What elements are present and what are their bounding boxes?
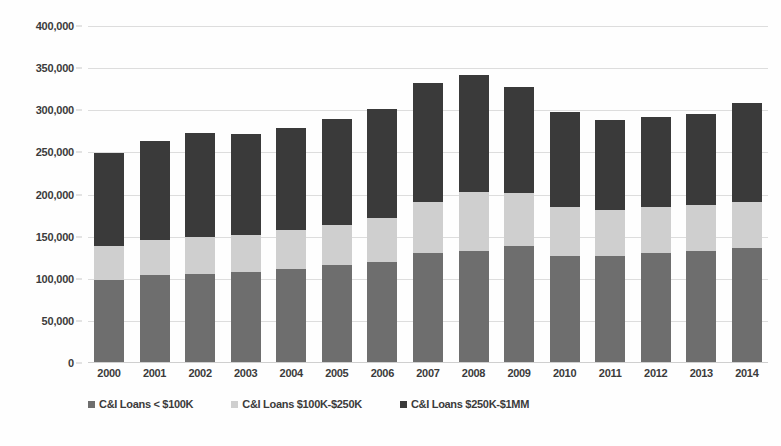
y-axis-tick-mark: [76, 26, 82, 27]
bar-column: [94, 26, 124, 363]
axis-baseline: [88, 362, 768, 363]
bar-segment: [231, 235, 261, 272]
bar-column: [686, 26, 716, 363]
bar-segment: [185, 133, 215, 237]
bar-segment: [686, 251, 716, 363]
bar-column: [322, 26, 352, 363]
y-axis-tick-label: 400,000: [36, 20, 74, 32]
bar-segment: [504, 193, 534, 246]
square-swatch-large-icon: [400, 401, 407, 408]
y-axis-tick-label: 50,000: [42, 315, 74, 327]
y-axis-tick-label: 300,000: [36, 104, 74, 116]
bar-segment: [185, 274, 215, 363]
chart-legend: C&I Loans < $100KC&I Loans $100K-$250KC&…: [88, 398, 688, 410]
bar-column: [459, 26, 489, 363]
bar-segment: [367, 262, 397, 363]
y-axis-tick-label: 200,000: [36, 189, 74, 201]
bar-column: [367, 26, 397, 363]
y-axis-tick-label: 250,000: [36, 146, 74, 158]
bar-segment: [94, 153, 124, 246]
legend-item[interactable]: C&I Loans < $100K: [88, 398, 193, 410]
y-axis: 400,000350,000300,000250,000200,000150,0…: [0, 0, 84, 363]
legend-item[interactable]: C&I Loans $100K-$250K: [231, 398, 362, 410]
y-axis-tick-mark: [76, 68, 82, 69]
x-axis-tick-label: 2006: [367, 367, 397, 379]
bar-segment: [504, 246, 534, 363]
bar-segment: [140, 275, 170, 363]
bar-segment: [94, 246, 124, 280]
bar-segment: [367, 218, 397, 262]
x-axis-tick-label: 2011: [595, 367, 625, 379]
bar-segment: [276, 230, 306, 269]
legend-label: C&I Loans $250K-$1MM: [411, 398, 529, 410]
bar-segment: [641, 207, 671, 253]
bar-segment: [732, 248, 762, 363]
bar-segment: [322, 225, 352, 265]
x-axis-tick-label: 2013: [686, 367, 716, 379]
bar-segment: [641, 117, 671, 207]
y-axis-tick-mark: [76, 152, 82, 153]
x-axis-tick-label: 2012: [641, 367, 671, 379]
x-axis-tick-label: 2002: [185, 367, 215, 379]
bar-segment: [459, 251, 489, 363]
bar-segment: [140, 240, 170, 275]
x-axis-tick-label: 2007: [413, 367, 443, 379]
bar-segment: [367, 109, 397, 218]
bar-segment: [459, 192, 489, 251]
x-axis-tick-label: 2001: [140, 367, 170, 379]
bar-segment: [413, 83, 443, 202]
bar-segment: [322, 119, 352, 225]
bar-column: [641, 26, 671, 363]
bar-segment: [732, 202, 762, 248]
bar-segment: [413, 253, 443, 363]
bar-segment: [276, 128, 306, 230]
legend-item[interactable]: C&I Loans $250K-$1MM: [400, 398, 529, 410]
bar-segment: [686, 205, 716, 251]
bar-segment: [322, 265, 352, 363]
bar-segment: [595, 256, 625, 363]
bar-segment: [550, 256, 580, 363]
bar-segment: [504, 87, 534, 193]
bar-column: [276, 26, 306, 363]
square-swatch-small-icon: [88, 401, 95, 408]
legend-label: C&I Loans $100K-$250K: [242, 398, 362, 410]
bar-segment: [231, 134, 261, 235]
bar-column: [185, 26, 215, 363]
x-axis-tick-label: 2009: [504, 367, 534, 379]
bar-column: [550, 26, 580, 363]
bar-column: [140, 26, 170, 363]
x-axis-tick-label: 2004: [276, 367, 306, 379]
bar-segment: [413, 202, 443, 253]
bar-segment: [686, 114, 716, 204]
y-axis-tick-mark: [76, 194, 82, 195]
bar-column: [231, 26, 261, 363]
x-axis-tick-label: 2003: [231, 367, 261, 379]
y-axis-tick-label: 150,000: [36, 231, 74, 243]
bar-segment: [94, 280, 124, 363]
bar-segment: [140, 141, 170, 240]
bar-column: [413, 26, 443, 363]
bar-segment: [185, 237, 215, 274]
y-axis-tick-label: 0: [68, 357, 74, 369]
bar-segment: [595, 210, 625, 256]
bar-segment: [550, 207, 580, 256]
bar-series-group: [88, 26, 768, 363]
bar-segment: [732, 103, 762, 202]
bar-segment: [231, 272, 261, 363]
stacked-bar-chart: 400,000350,000300,000250,000200,000150,0…: [0, 0, 781, 446]
x-axis-tick-label: 2008: [459, 367, 489, 379]
y-axis-tick-mark: [76, 363, 82, 364]
bar-column: [595, 26, 625, 363]
bar-segment: [595, 120, 625, 210]
bar-column: [732, 26, 762, 363]
y-axis-tick-label: 100,000: [36, 273, 74, 285]
bar-segment: [459, 75, 489, 192]
x-axis: 2000200120022003200420052006200720082009…: [88, 367, 768, 379]
bar-segment: [641, 253, 671, 363]
x-axis-tick-label: 2000: [94, 367, 124, 379]
x-axis-tick-label: 2014: [732, 367, 762, 379]
plot-area: [88, 26, 768, 363]
y-axis-tick-mark: [76, 278, 82, 279]
y-axis-tick-mark: [76, 110, 82, 111]
x-axis-tick-label: 2010: [550, 367, 580, 379]
